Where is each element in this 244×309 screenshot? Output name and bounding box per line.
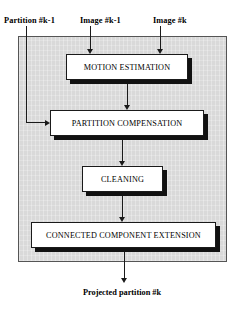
connector-partition-km1-vertical	[26, 26, 27, 118]
stage-connected-component-extension: CONNECTED COMPONENT EXTENSION	[31, 222, 216, 248]
stage-cleaning-label: CLEANING	[101, 175, 144, 184]
stage-motion-estimation-label: MOTION ESTIMATION	[84, 63, 170, 72]
connector-output	[124, 252, 125, 278]
input-label-image-km1: Image #k-1	[80, 16, 121, 25]
connector-motion-to-partition	[127, 84, 128, 105]
stage-motion-estimation: MOTION ESTIMATION	[66, 54, 188, 80]
connector-cleaning-to-connected	[122, 196, 123, 217]
stage-partition-compensation-label: PARTITION COMPENSATION	[72, 119, 183, 128]
output-label-projected-partition-k: Projected partition #k	[0, 288, 244, 297]
connector-image-km1	[90, 26, 91, 49]
connector-partition-to-cleaning	[122, 140, 123, 161]
arrowhead-output	[121, 278, 127, 283]
stage-cleaning: CLEANING	[82, 166, 163, 192]
connector-image-k	[160, 26, 161, 49]
input-label-image-k: Image #k	[153, 16, 187, 25]
flowchart-diagram: Partition #k-1 Image #k-1 Image #k MOTIO…	[0, 0, 244, 309]
stage-connected-component-extension-label: CONNECTED COMPONENT EXTENSION	[46, 231, 201, 240]
input-label-partition-km1: Partition #k-1	[4, 16, 55, 25]
stage-partition-compensation: PARTITION COMPENSATION	[50, 110, 204, 136]
connector-partition-km1-horizontal	[26, 122, 45, 123]
